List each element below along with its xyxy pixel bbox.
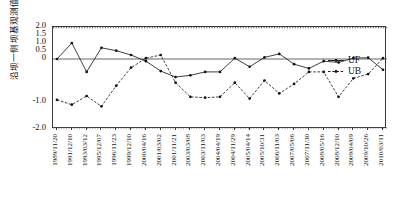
y-tick-label: -1.0 bbox=[10, 96, 46, 105]
x-tick-mark bbox=[130, 127, 131, 130]
x-tick-mark bbox=[382, 127, 383, 130]
legend-symbol-ub bbox=[327, 66, 345, 77]
data-point-uf bbox=[233, 57, 236, 60]
x-tick-label: 2000/04/16 bbox=[140, 134, 150, 200]
x-tick-mark bbox=[308, 127, 309, 130]
data-point-uf bbox=[115, 49, 118, 52]
data-point-ub bbox=[85, 95, 88, 98]
data-point-uf bbox=[322, 60, 325, 63]
x-tick-label: 2003/03/08 bbox=[184, 134, 194, 200]
legend-item-uf: UF bbox=[327, 55, 361, 66]
data-point-ub bbox=[322, 71, 325, 74]
legend-label: UF bbox=[348, 55, 360, 66]
x-tick-label: 2009/04/09 bbox=[347, 134, 357, 200]
data-point-uf bbox=[56, 58, 59, 61]
data-point-ub bbox=[130, 66, 133, 69]
data-point-ub bbox=[219, 95, 222, 98]
x-tick-label: 1996/11/23 bbox=[110, 134, 120, 200]
legend-symbol-uf bbox=[327, 55, 345, 66]
x-tick-label: 2003/11/03 bbox=[199, 134, 209, 200]
data-point-ub bbox=[145, 57, 148, 60]
x-tick-mark bbox=[100, 127, 101, 130]
data-point-ub bbox=[278, 92, 281, 95]
chart-container: 沿坝一侧坝基观测值统计值 2.01.51.00.50-1.0-2.0 1989/… bbox=[0, 0, 395, 202]
data-point-uf bbox=[145, 60, 148, 63]
legend-label: UB bbox=[348, 66, 361, 77]
x-tick-mark bbox=[56, 127, 57, 130]
data-point-uf bbox=[278, 53, 281, 56]
x-tick-mark bbox=[219, 127, 220, 130]
x-tick-label: 1989/11/20 bbox=[51, 134, 61, 200]
x-tick-mark bbox=[189, 127, 190, 130]
data-point-uf bbox=[174, 76, 177, 79]
legend-item-ub: UB bbox=[327, 66, 361, 77]
data-point-uf bbox=[85, 71, 88, 74]
x-tick-label: 2001/11/21 bbox=[170, 134, 180, 200]
data-point-ub bbox=[174, 81, 177, 84]
x-tick-mark bbox=[278, 127, 279, 130]
data-point-uf bbox=[248, 65, 251, 68]
x-tick-mark bbox=[204, 127, 205, 130]
data-point-ub bbox=[293, 83, 296, 86]
data-point-ub bbox=[56, 99, 59, 102]
data-point-uf bbox=[70, 42, 73, 45]
data-point-ub bbox=[115, 84, 118, 87]
x-axis-tick-labels: 1989/11/201991/12/101993/03/121995/12/07… bbox=[52, 130, 386, 202]
x-tick-label: 2008/05/16 bbox=[318, 134, 328, 200]
x-tick-label: 2010/03/11 bbox=[377, 134, 387, 200]
data-point-uf bbox=[308, 67, 311, 70]
plot-area bbox=[52, 26, 386, 128]
data-point-ub bbox=[308, 71, 311, 74]
x-tick-label: 2006/11/03 bbox=[273, 134, 283, 200]
x-tick-label: 1999/12/10 bbox=[125, 134, 135, 200]
data-point-ub bbox=[233, 81, 236, 84]
data-point-uf bbox=[130, 54, 133, 57]
x-tick-mark bbox=[293, 127, 294, 130]
chart-legend: UFUB bbox=[327, 55, 361, 77]
data-point-uf bbox=[159, 70, 162, 73]
x-tick-mark bbox=[175, 127, 176, 130]
data-point-ub bbox=[159, 54, 162, 57]
data-point-uf bbox=[189, 74, 192, 77]
x-tick-label: 1991/12/10 bbox=[66, 134, 76, 200]
data-point-ub bbox=[337, 95, 340, 98]
x-tick-mark bbox=[71, 127, 72, 130]
data-point-uf bbox=[293, 63, 296, 66]
x-tick-mark bbox=[352, 127, 353, 130]
data-point-uf bbox=[204, 71, 207, 74]
data-point-uf bbox=[367, 56, 370, 59]
data-point-uf bbox=[382, 68, 385, 71]
data-point-ub bbox=[382, 57, 385, 60]
x-tick-mark bbox=[145, 127, 146, 130]
y-tick-label: 0 bbox=[10, 53, 46, 62]
data-point-ub bbox=[352, 77, 355, 80]
x-tick-label: 2007/11/30 bbox=[303, 134, 313, 200]
x-tick-mark bbox=[234, 127, 235, 130]
x-tick-label: 2005/04/14 bbox=[244, 134, 254, 200]
x-tick-label: 2001/03/02 bbox=[155, 134, 165, 200]
data-point-uf bbox=[219, 71, 222, 74]
x-tick-mark bbox=[115, 127, 116, 130]
x-tick-mark bbox=[367, 127, 368, 130]
x-tick-label: 1995/12/07 bbox=[95, 134, 105, 200]
chart-svg bbox=[53, 27, 387, 129]
x-tick-mark bbox=[263, 127, 264, 130]
data-point-ub bbox=[248, 97, 251, 100]
x-tick-label: 2004/11/29 bbox=[229, 134, 239, 200]
data-point-ub bbox=[70, 103, 73, 106]
x-tick-mark bbox=[249, 127, 250, 130]
x-tick-label: 2007/05/06 bbox=[288, 134, 298, 200]
data-point-ub bbox=[204, 96, 207, 99]
x-tick-label: 1993/03/12 bbox=[81, 134, 91, 200]
x-tick-label: 2004/04/19 bbox=[214, 134, 224, 200]
data-point-uf bbox=[100, 46, 103, 49]
data-point-ub bbox=[367, 73, 370, 76]
x-tick-mark bbox=[338, 127, 339, 130]
data-point-ub bbox=[263, 79, 266, 82]
x-tick-mark bbox=[86, 127, 87, 130]
data-point-uf bbox=[263, 56, 266, 59]
x-tick-label: 2008/12/10 bbox=[333, 134, 343, 200]
x-tick-label: 2009/10/26 bbox=[362, 134, 372, 200]
data-point-ub bbox=[100, 105, 103, 108]
x-tick-label: 2005/10/31 bbox=[258, 134, 268, 200]
